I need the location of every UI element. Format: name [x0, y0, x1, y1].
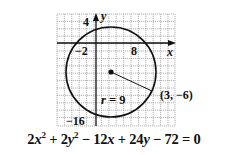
point-label: (3, −6) [160, 88, 193, 102]
grid [57, 14, 175, 126]
x-tick-neg2: −2 [75, 44, 88, 58]
radius-label: r = 9 [101, 93, 126, 107]
x-axis-label: x [166, 45, 173, 59]
equation: 2x2 + 2y2 − 12x + 24y − 72 = 0 [0, 131, 228, 148]
center-point [108, 69, 113, 74]
x-tick-8: 8 [131, 44, 137, 58]
y-tick-neg16: −16 [66, 114, 85, 128]
y-tick-4: 4 [83, 15, 89, 29]
circle-graph: y 4 x −2 8 −16 r = 9 (3, −6) [0, 0, 228, 131]
y-axis-label: y [99, 9, 107, 23]
